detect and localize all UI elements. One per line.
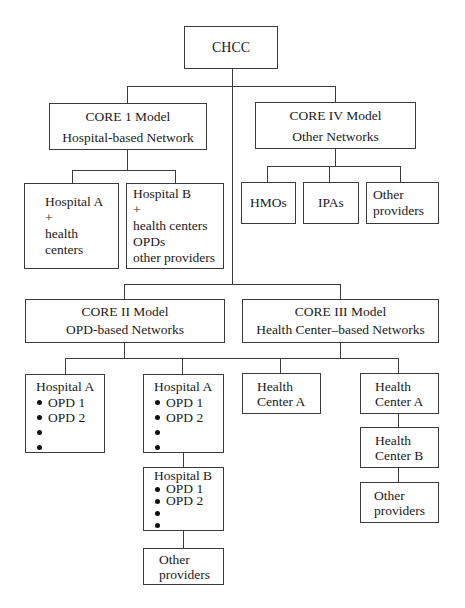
connector [65,358,66,374]
node-label: CHCC [212,40,250,56]
node-core3-health-center-a-1: Health Center A [242,373,321,414]
node-title: CORE 1 Model [86,106,171,127]
node-core3-health-center-a-2: Health Center A [360,373,439,414]
bullet-icon [155,523,160,528]
node-core3-model: CORE III Model Health Center–based Netwo… [242,299,439,343]
connector [127,86,336,87]
connector [232,68,233,284]
node-core4-hmos: HMOs [241,182,296,224]
bullet-item: OPD 2 [155,495,223,507]
bullet-icon [155,487,160,492]
line: Other [374,488,438,503]
connector [124,284,341,285]
node-core3-health-center-b: Health Center B [360,427,439,468]
line: providers [374,503,438,518]
line: centers [45,242,118,258]
line: + [45,210,118,226]
node-subtitle: Other Networks [292,126,379,147]
line: providers [159,567,223,582]
line: + [133,202,223,218]
bullet-item: OPD 2 [37,410,104,425]
connector [175,170,176,183]
node-subtitle: Health Center–based Networks [256,321,425,339]
node-title: CORE II Model [82,303,169,321]
node-core2-other-providers: Other providers [143,548,224,585]
node-core1-hospital-b: Hospital B + health centers OPDs other p… [126,183,224,269]
node-subtitle: OPD-based Networks [66,321,184,339]
bullet-item: OPD 2 [155,410,223,425]
bullet-item: OPD 1 [37,395,104,410]
bullet-icon [155,499,160,504]
node-label: HMOs [250,195,287,211]
node-label: IPAs [318,195,344,211]
connector [400,166,401,182]
line: Center B [375,448,438,463]
line: Other [159,552,223,567]
line: health centers [133,218,223,234]
node-title: CORE IV Model [289,105,381,126]
bullet-icon [155,445,160,450]
node-core4-other-providers: Other providers [366,182,439,224]
bullet-item [155,425,223,440]
connector [182,358,183,374]
connector [329,166,330,182]
node-core1-hospital-a: Hospital A + health centers [24,183,119,269]
connector [335,149,336,166]
line: Hospital A [45,194,118,210]
bullet-icon [155,511,160,516]
line: Hospital B [133,186,223,202]
node-title: Hospital A [154,379,223,395]
bullet-item [37,425,104,440]
node-subtitle: Hospital-based Network [62,127,194,148]
connector [398,467,399,482]
connector [267,166,401,167]
bullet-icon [155,430,160,435]
line: Other [373,187,438,203]
node-title: CORE III Model [295,303,387,321]
connector [127,86,128,103]
node-core2-hospital-a-1: Hospital A OPD 1 OPD 2 [25,374,105,453]
connector [340,284,341,299]
line: Center A [375,394,438,409]
bullet-icon [155,415,160,420]
bullet-icon [37,430,42,435]
connector [72,170,73,183]
connector [398,358,399,373]
bullet-icon [155,400,160,405]
line: health [45,226,118,242]
connector [65,358,399,359]
connector [267,166,268,182]
bullet-item [155,440,223,455]
bullet-icon [37,400,42,405]
line: Health [375,379,438,394]
node-core3-other-providers: Other providers [360,482,439,523]
line: OPDs [133,234,223,250]
node-chcc: CHCC [184,26,278,69]
node-core2-hospital-a-2: Hospital A OPD 1 OPD 2 [143,374,224,453]
node-core1-model: CORE 1 Model Hospital-based Network [49,103,207,150]
node-core4-ipas: IPAs [303,182,359,224]
bullet-icon [37,445,42,450]
bullet-icon [37,415,42,420]
connector [127,150,128,170]
node-title: Hospital A [36,379,104,395]
connector [340,343,341,358]
bullet-item: OPD 1 [155,395,223,410]
connector [72,170,176,171]
bullet-item [37,440,104,455]
line: Health [375,433,438,448]
line: other providers [133,250,223,266]
connector [335,86,336,102]
connector [183,531,184,548]
bullet-item [155,519,223,531]
node-core2-hospital-b: Hospital B OPD 1 OPD 2 [143,467,224,531]
line: Health [257,379,320,394]
connector [124,343,125,358]
node-core2-model: CORE II Model OPD-based Networks [25,299,225,343]
chcc-org-chart: CHCC CORE 1 Model Hospital-based Network… [0,0,465,608]
connector [280,358,281,373]
connector [124,284,125,299]
line: Center A [257,394,320,409]
bullet-item [155,507,223,519]
node-core4-model: CORE IV Model Other Networks [255,102,416,149]
